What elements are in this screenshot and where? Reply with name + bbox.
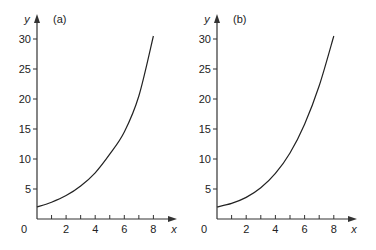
y-tick-label: 15: [199, 123, 211, 135]
y-axis-label: y: [203, 13, 211, 25]
x-tick-label: 2: [243, 223, 249, 235]
y-tick-label: 20: [199, 93, 211, 105]
y-axis-arrow-icon: [214, 14, 220, 23]
y-tick-label: 10: [19, 153, 31, 165]
x-tick-label: 8: [331, 223, 337, 235]
y-tick-label: 15: [19, 123, 31, 135]
y-tick-label: 25: [19, 63, 31, 75]
y-tick-label: 30: [199, 33, 211, 45]
chart-a-svg: 2468051015202530xy(a): [0, 0, 188, 250]
y-tick-label: 25: [199, 63, 211, 75]
x-axis-arrow-icon: [348, 216, 357, 222]
x-axis-arrow-icon: [168, 216, 177, 222]
x-tick-label: 8: [150, 223, 156, 235]
x-axis-label: x: [170, 223, 177, 235]
y-tick-label: 0: [21, 223, 27, 235]
panel-label: (b): [233, 13, 246, 25]
chart-b-svg: 2468051015202530xy(b): [180, 0, 376, 250]
y-axis-arrow-icon: [34, 14, 40, 23]
y-tick-label: 5: [205, 183, 211, 195]
y-tick-label: 0: [201, 223, 207, 235]
chart-panel-b: 2468051015202530xy(b): [180, 0, 368, 250]
y-tick-label: 30: [19, 33, 31, 45]
x-tick-label: 4: [272, 223, 278, 235]
x-tick-label: 6: [121, 223, 127, 235]
y-tick-label: 20: [19, 93, 31, 105]
x-axis-label: x: [350, 223, 357, 235]
y-tick-label: 5: [25, 183, 31, 195]
y-tick-label: 10: [199, 153, 211, 165]
panel-label: (a): [53, 13, 66, 25]
chart-panel-a: 2468051015202530xy(a): [0, 0, 188, 250]
x-tick-label: 6: [302, 223, 308, 235]
x-tick-label: 4: [92, 223, 98, 235]
data-curve: [37, 36, 153, 207]
x-tick-label: 2: [63, 223, 69, 235]
y-axis-label: y: [23, 13, 31, 25]
data-curve: [217, 36, 334, 207]
